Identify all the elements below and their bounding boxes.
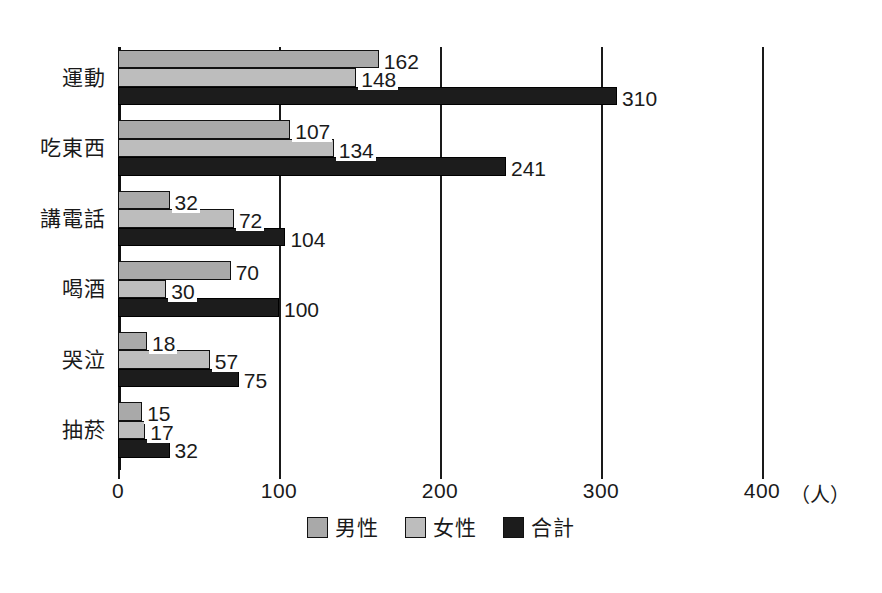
bar-運動-女性: [118, 68, 356, 87]
bar-喝酒-合計: [118, 298, 279, 317]
bar-value-哭泣-男性: 18: [149, 333, 177, 354]
gridline-100: [279, 47, 281, 470]
legend-label-合計: 合計: [531, 517, 575, 538]
bar-value-吃東西-女性: 134: [336, 140, 376, 161]
bar-吃東西-男性: [118, 120, 290, 139]
bar-喝酒-男性: [118, 261, 231, 280]
bar-value-講電話-合計: 104: [287, 229, 327, 250]
legend-label-女性: 女性: [433, 517, 477, 538]
bar-喝酒-女性: [118, 280, 166, 299]
bar-chart: 0100200300400（人） 運動吃東西講電話喝酒哭泣抽菸 男性女性合計 1…: [0, 0, 882, 593]
bar-value-喝酒-女性: 30: [168, 281, 196, 302]
bar-value-講電話-女性: 72: [236, 210, 264, 231]
category-label-5: 哭泣: [0, 349, 106, 370]
legend-swatch-icon-女性: [405, 517, 426, 538]
category-label-6: 抽菸: [0, 419, 106, 440]
x-tick-300: [601, 470, 603, 479]
bar-哭泣-男性: [118, 332, 147, 351]
bar-value-運動-合計: 310: [619, 88, 659, 109]
bar-運動-男性: [118, 50, 379, 69]
x-tick-label-300: 300: [583, 479, 620, 503]
bar-value-哭泣-女性: 57: [212, 351, 240, 372]
x-tick-label-0: 0: [112, 479, 124, 503]
bar-value-吃東西-男性: 107: [292, 121, 332, 142]
legend-item-合計[interactable]: 合計: [503, 517, 575, 538]
gridline-300: [601, 47, 603, 470]
category-label-3: 講電話: [0, 208, 106, 229]
legend-item-女性[interactable]: 女性: [405, 517, 477, 538]
x-tick-label-100: 100: [261, 479, 298, 503]
bar-value-運動-女性: 148: [358, 69, 398, 90]
bar-講電話-男性: [118, 191, 170, 210]
bar-value-抽菸-合計: 32: [172, 440, 200, 461]
x-tick-label-200: 200: [422, 479, 459, 503]
category-label-1: 運動: [0, 67, 106, 88]
chart-legend: 男性女性合計: [0, 517, 882, 538]
legend-item-男性[interactable]: 男性: [307, 517, 379, 538]
gridline-400: [762, 47, 764, 470]
legend-label-男性: 男性: [335, 517, 379, 538]
x-axis-unit-label: （人）: [790, 479, 850, 508]
category-label-2: 吃東西: [0, 137, 106, 158]
bar-抽菸-男性: [118, 402, 142, 421]
bar-value-喝酒-合計: 100: [281, 299, 321, 320]
x-tick-label-400: 400: [744, 479, 781, 503]
bar-吃東西-合計: [118, 157, 506, 176]
x-tick-200: [440, 470, 442, 479]
bar-value-哭泣-合計: 75: [241, 370, 269, 391]
legend-swatch-icon-男性: [307, 517, 328, 538]
plot-area: [118, 47, 762, 470]
x-tick-100: [279, 470, 281, 479]
legend-swatch-icon-合計: [503, 517, 524, 538]
bar-value-喝酒-男性: 70: [233, 262, 261, 283]
bar-value-吃東西-合計: 241: [508, 158, 548, 179]
category-label-4: 喝酒: [0, 278, 106, 299]
gridline-200: [440, 47, 442, 470]
bar-value-講電話-男性: 32: [172, 192, 200, 213]
bar-抽菸-女性: [118, 421, 145, 440]
x-tick-0: [118, 470, 120, 479]
x-tick-400: [762, 470, 764, 479]
